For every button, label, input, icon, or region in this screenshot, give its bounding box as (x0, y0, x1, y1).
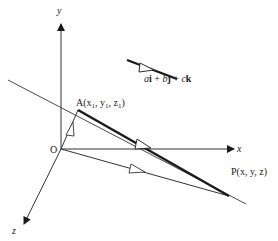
x-axis-label: x (236, 143, 242, 154)
z-axis (24, 149, 61, 224)
direction-vector-label: ai + bj + ck (144, 73, 192, 84)
segment-ap (78, 110, 229, 196)
arrow-icon-op (129, 164, 145, 173)
point-a-label: A(x1, y1, z1) (76, 97, 125, 110)
origin-label: O (50, 144, 57, 155)
arrow-icon-direction (139, 63, 154, 72)
position-vector-op (61, 149, 229, 196)
vector-line-diagram: y x z O A(x1, y1, z1) P(x, y, z) ai + bj… (0, 0, 278, 241)
arrow-icon-oa (66, 122, 74, 136)
y-axis-label: y (56, 5, 62, 16)
arrow-icon-ap (135, 139, 151, 149)
point-p-label: P(x, y, z) (231, 166, 267, 178)
z-axis-label: z (11, 225, 16, 236)
